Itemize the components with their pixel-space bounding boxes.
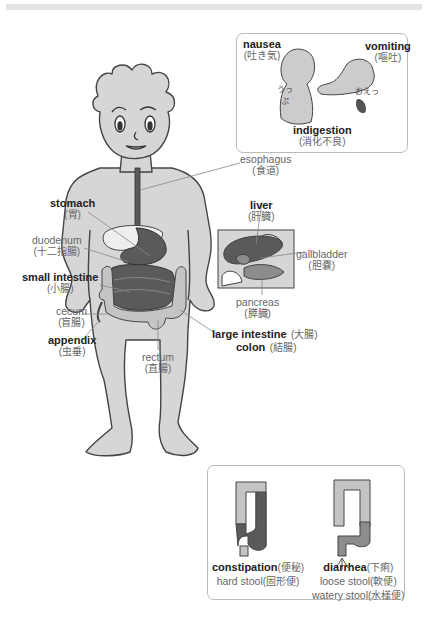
large-intestine-en: large intestine — [212, 328, 287, 340]
esophagus-en: esophagus — [240, 153, 291, 165]
nausea-en: nausea — [243, 38, 281, 50]
colon-ja: (結腸) — [270, 342, 297, 353]
esophagus-label: esophagus (食道) — [240, 153, 291, 177]
rectum-ja: (直腸) — [142, 363, 174, 375]
small-intestine-label: small intestine (小腸) — [22, 271, 98, 295]
colon-en: colon — [236, 341, 265, 353]
stomach-ja: (胃) — [50, 209, 95, 221]
small-intestine-organ — [108, 265, 176, 311]
loose-stool-en: loose stool — [320, 575, 370, 587]
colon-label: colon (結腸) — [236, 340, 296, 354]
constipation-ja: (便秘) — [277, 562, 304, 573]
diarrhea-ja: (下痢) — [367, 562, 394, 573]
stool-panel: constipation(便秘) hard stool(固形便) diarrhe… — [207, 465, 405, 600]
pancreas-label: pancreas (膵臓) — [236, 296, 279, 320]
duodenum-label: duodenum (十二指腸) — [32, 234, 82, 258]
constipation-en: constipation — [212, 561, 277, 573]
liver-ja: (肝臓) — [248, 211, 275, 223]
symptoms-panel: うっ ぷ nausea (吐き気) vomiting (嘔吐) おえっ indi… — [236, 33, 408, 153]
small-intestine-ja: (小腸) — [22, 283, 98, 295]
indigestion-en: indigestion — [293, 124, 352, 136]
diarrhea-en: diarrhea — [323, 561, 366, 573]
large-intestine-ja: (大腸) — [291, 329, 318, 340]
rectum-en: rectum — [142, 351, 174, 363]
watery-stool-ja: (水様便) — [368, 590, 405, 601]
stomach-en: stomach — [50, 197, 95, 209]
hard-stool-ja: (固形便) — [263, 576, 300, 587]
appendix-ja: (虫垂) — [48, 346, 96, 358]
constipation-label: constipation(便秘) hard stool(固形便) — [212, 560, 304, 588]
cecum-label: cecum (盲腸) — [56, 305, 87, 329]
duodenum-ja: (十二指腸) — [32, 246, 82, 258]
stomach-label: stomach (胃) — [50, 197, 95, 221]
svg-text:うっ: うっ — [277, 85, 293, 94]
nausea-ja: (吐き気) — [243, 50, 281, 62]
cecum-ja: (盲腸) — [56, 317, 87, 329]
esophagus-organ — [135, 168, 140, 228]
pancreas-en: pancreas — [236, 296, 279, 308]
hard-stool-en: hard stool — [217, 575, 263, 587]
pancreas-ja: (膵臓) — [236, 308, 279, 320]
appendix-label: appendix (虫垂) — [48, 334, 96, 358]
liver-label: liver (肝臓) — [248, 199, 275, 223]
gallbladder-en: gallbladder — [296, 248, 347, 260]
indigestion-ja: (消化不良) — [293, 136, 352, 148]
duodenum-en: duodenum — [32, 234, 82, 246]
appendix-en: appendix — [48, 334, 96, 346]
gallbladder-ja: (胆嚢) — [296, 260, 347, 272]
liver-en: liver — [248, 199, 275, 211]
vomiting-en: vomiting — [365, 40, 411, 52]
svg-text:ぷ: ぷ — [281, 97, 289, 106]
diarrhea-label: diarrhea(下痢) loose stool(軟便) watery stoo… — [312, 560, 405, 602]
nausea-label: nausea (吐き気) — [243, 38, 281, 62]
indigestion-label: indigestion (消化不良) — [293, 124, 352, 148]
vomiting-label: vomiting (嘔吐) — [365, 40, 411, 64]
gallbladder-label: gallbladder (胆嚢) — [296, 248, 347, 272]
vomit-sound-effect: おえっ — [355, 86, 379, 98]
small-intestine-en: small intestine — [22, 271, 98, 283]
liver-inset — [218, 230, 294, 288]
esophagus-ja: (食道) — [240, 165, 291, 177]
vomiting-ja: (嘔吐) — [365, 52, 411, 64]
cecum-en: cecum — [56, 305, 87, 317]
watery-stool-en: watery stool — [312, 589, 368, 601]
loose-stool-ja: (軟便) — [370, 576, 397, 587]
rectum-label: rectum (直腸) — [142, 351, 174, 375]
